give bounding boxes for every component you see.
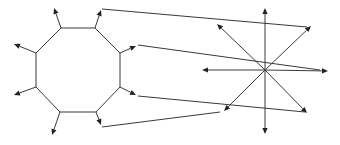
- arrowhead-icon: [97, 10, 102, 17]
- star-arrow-down-right: [265, 70, 307, 113]
- arrowhead-icon: [202, 67, 208, 72]
- diagram-canvas: [0, 0, 340, 145]
- oct-arrow-bottom-right: [96, 112, 101, 125]
- arrowhead-icon: [96, 118, 101, 125]
- connector-lines: [102, 9, 320, 127]
- connector-upper: [138, 45, 320, 70]
- connector-top: [102, 9, 307, 27]
- arrowhead-icon: [262, 128, 267, 134]
- octagon-arrows: [14, 8, 136, 135]
- octagon-group: [14, 8, 136, 135]
- arrowhead-icon: [14, 91, 21, 96]
- oct-arrow-top-left: [54, 8, 61, 28]
- oct-arrow-bottom-left: [52, 112, 60, 135]
- star-arrow-down: [262, 70, 267, 134]
- arrowhead-icon: [262, 8, 267, 14]
- oct-arrow-left-lower: [14, 87, 36, 95]
- oct-arrow-right-lower: [120, 87, 136, 95]
- connector-bottom: [102, 112, 220, 127]
- star-arrow-group: [202, 8, 328, 134]
- arrowhead-icon: [54, 8, 59, 15]
- star-arrow-right: [265, 68, 328, 73]
- octagon-shape: [36, 28, 120, 112]
- star-arrow-left: [202, 67, 265, 72]
- connector-lower: [138, 96, 305, 112]
- arrowhead-icon: [52, 128, 57, 135]
- oct-arrow-left-upper: [14, 44, 36, 53]
- arrowhead-icon: [322, 68, 328, 73]
- oct-arrow-right-upper: [120, 46, 136, 53]
- star-arrow-up: [262, 8, 267, 70]
- oct-arrow-top-right: [95, 10, 102, 28]
- star-arrow-up-left: [217, 24, 265, 70]
